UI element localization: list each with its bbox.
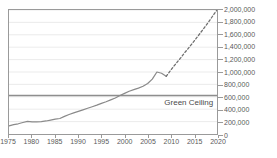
- y-tick-mark: [218, 122, 223, 123]
- x-tick-label: 2005: [140, 138, 156, 146]
- y-tick-mark: [218, 9, 223, 10]
- x-tick-label: 2020: [210, 138, 226, 146]
- y-tick-label: 800,000: [224, 81, 249, 88]
- data-series-lines: [9, 10, 217, 126]
- y-tick-label: 2,000,000: [224, 6, 255, 13]
- chart-container: Nuclear Arrivals in Industries 0200,0004…: [0, 0, 277, 158]
- y-tick-mark: [218, 22, 223, 23]
- y-tick-mark: [218, 34, 223, 35]
- y-tick-mark: [218, 110, 223, 111]
- x-tick-label: 1975: [0, 138, 16, 146]
- y-tick-mark: [218, 47, 223, 48]
- y-tick-label: 200,000: [224, 119, 249, 126]
- x-tick-label: 1995: [94, 138, 110, 146]
- chart-title: Nuclear Arrivals in Industries: [0, 0, 277, 1]
- y-tick-label: 1,200,000: [224, 56, 255, 63]
- x-tick-label: 1985: [47, 138, 63, 146]
- y-tick-label: 1,000,000: [224, 69, 255, 76]
- y-tick-label: 400,000: [224, 106, 249, 113]
- x-tick-label: 2010: [164, 138, 180, 146]
- x-tick-label: 1990: [70, 138, 86, 146]
- x-tick-label: 2000: [117, 138, 133, 146]
- y-tick-label: 1,800,000: [224, 18, 255, 25]
- y-tick-label: 1,400,000: [224, 43, 255, 50]
- y-tick-mark: [218, 59, 223, 60]
- plot-area: [8, 9, 218, 135]
- y-tick-mark: [218, 85, 223, 86]
- y-tick-label: 1,600,000: [224, 31, 255, 38]
- y-tick-label: 600,000: [224, 94, 249, 101]
- x-tick-label: 2015: [187, 138, 203, 146]
- y-tick-mark: [218, 97, 223, 98]
- y-tick-mark: [218, 72, 223, 73]
- x-tick-label: 1980: [24, 138, 40, 146]
- green-ceiling-label: Green Ceiling: [164, 98, 213, 107]
- plot-svg: [9, 10, 217, 134]
